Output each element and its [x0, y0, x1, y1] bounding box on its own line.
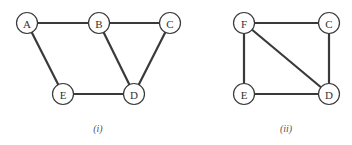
node-label: C — [325, 18, 332, 30]
node-label: D — [325, 89, 333, 101]
node-label: D — [130, 89, 138, 101]
edge-f-d — [244, 23, 329, 94]
node-f: F — [234, 13, 255, 34]
node-e: E — [53, 84, 74, 105]
captions-layer: (i)(ii) — [93, 123, 293, 135]
node-label: B — [95, 18, 102, 30]
edge-c-d — [134, 23, 170, 94]
node-label: A — [23, 18, 31, 30]
node-label: E — [60, 89, 67, 101]
graph-caption: (ii) — [280, 123, 293, 135]
node-b: B — [89, 13, 110, 34]
edge-b-d — [99, 23, 134, 94]
node-c: C — [319, 13, 340, 34]
edge-a-e — [27, 23, 63, 94]
graph-caption: (i) — [93, 123, 103, 135]
nodes-layer: ABCEDFCED — [17, 13, 340, 105]
node-d: D — [319, 84, 340, 105]
node-e: E — [234, 84, 255, 105]
node-c: C — [160, 13, 181, 34]
node-label: C — [166, 18, 173, 30]
node-a: A — [17, 13, 38, 34]
edges-layer — [27, 23, 329, 94]
node-d: D — [124, 84, 145, 105]
graph-diagram: ABCEDFCED (i)(ii) — [0, 0, 352, 145]
node-label: E — [241, 89, 248, 101]
node-label: F — [241, 18, 247, 30]
